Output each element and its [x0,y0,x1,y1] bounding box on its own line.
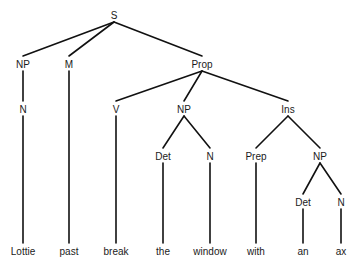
word-window: window [192,246,227,257]
word-break: break [103,246,129,257]
edge-NP2-Det1 [163,116,184,148]
edge-S-Prop [114,22,202,56]
word-an: an [297,246,308,257]
node-ins: Ins [281,104,294,115]
node-m: M [65,59,73,70]
node-prep: Prep [245,151,267,162]
node-n: N [19,104,26,115]
edge-Prop-Ins [202,71,288,101]
edge-S-NP1 [23,22,114,56]
node-np: NP [313,151,327,162]
edge-NP3-N3 [320,163,341,194]
syntax-tree-diagram: SNPMPropNVNPInsDetNPrepNPDetNLottiepastb… [0,0,359,267]
word-lottie: Lottie [11,246,36,257]
node-v: V [113,104,120,115]
word-past: past [60,246,79,257]
node-np: NP [177,104,191,115]
tree-edges [23,22,341,243]
node-n: N [337,197,344,208]
node-det: Det [295,197,311,208]
word-the: the [156,246,170,257]
edge-Ins-Prep [256,116,288,148]
word-ax: ax [336,246,347,257]
node-prop: Prop [191,59,213,70]
edge-NP3-Det2 [303,163,320,194]
edge-Ins-NP3 [288,116,320,148]
node-np: NP [16,59,30,70]
edge-Prop-V [116,71,202,101]
node-s: S [111,10,118,21]
edge-S-M [69,22,114,56]
edge-NP2-N2 [184,116,210,148]
word-with: with [246,246,265,257]
node-n: N [206,151,213,162]
node-det: Det [155,151,171,162]
